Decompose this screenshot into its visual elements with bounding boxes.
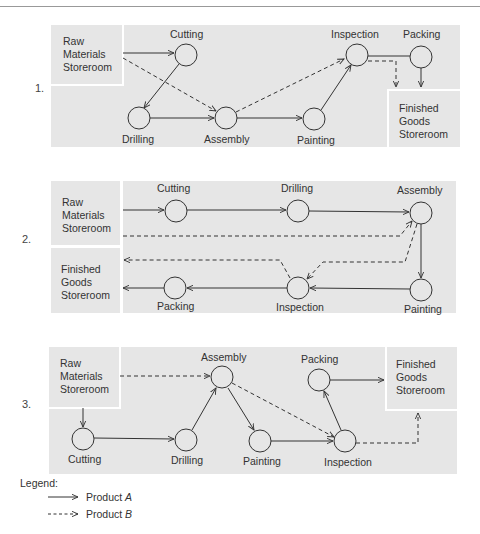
svg-text:Raw: Raw [62, 196, 83, 208]
svg-text:Painting: Painting [243, 455, 281, 467]
legend-product-a: Product A [86, 491, 132, 503]
svg-text:Painting: Painting [297, 134, 335, 146]
svg-text:Goods: Goods [396, 371, 427, 383]
legend-title: Legend: [20, 477, 58, 489]
legend-product-b-label: Product [86, 508, 122, 520]
svg-text:Cutting: Cutting [170, 28, 203, 40]
svg-text:Drilling: Drilling [171, 454, 203, 466]
svg-text:Assembly: Assembly [397, 184, 443, 196]
svg-text:Finished: Finished [396, 358, 436, 370]
legend-product-a-label: Product [86, 491, 122, 503]
svg-text:Cutting: Cutting [157, 182, 190, 194]
svg-text:Goods: Goods [399, 115, 430, 127]
svg-text:Raw: Raw [63, 35, 84, 47]
svg-text:Storeroom: Storeroom [399, 128, 448, 140]
legend-product-b-letter: B [125, 508, 132, 520]
svg-text:Assembly: Assembly [204, 133, 250, 145]
legend-product-a-letter: A [125, 491, 132, 503]
svg-text:Storeroom: Storeroom [396, 384, 445, 396]
panel-2: Raw Materials Storeroom Finished Goods S… [51, 181, 456, 315]
svg-text:Cutting: Cutting [68, 453, 101, 465]
svg-text:Drilling: Drilling [281, 182, 313, 194]
svg-text:Drilling: Drilling [122, 133, 154, 145]
svg-text:Materials: Materials [63, 48, 106, 60]
svg-text:Finished: Finished [61, 263, 101, 275]
legend-product-b: Product B [86, 508, 132, 520]
svg-text:Storeroom: Storeroom [63, 61, 112, 73]
svg-text:Materials: Materials [62, 209, 105, 221]
svg-text:Storeroom: Storeroom [60, 383, 109, 395]
svg-text:Goods: Goods [61, 276, 92, 288]
svg-text:Inspection: Inspection [324, 456, 372, 468]
svg-text:Raw: Raw [60, 357, 81, 369]
svg-text:Storeroom: Storeroom [62, 222, 111, 234]
svg-text:Packing: Packing [157, 300, 195, 312]
svg-text:Packing: Packing [403, 28, 441, 40]
svg-text:Painting: Painting [404, 303, 442, 315]
layout-diagram: Raw Materials Storeroom Finished Goods S… [0, 0, 480, 534]
panel-1: Raw Materials Storeroom Finished Goods S… [51, 23, 462, 150]
svg-text:Inspection: Inspection [276, 301, 324, 313]
panel-3: Raw Materials Storeroom Finished Goods S… [49, 345, 459, 474]
svg-text:Assembly: Assembly [201, 351, 247, 363]
svg-text:Finished: Finished [399, 102, 439, 114]
svg-text:Materials: Materials [60, 370, 103, 382]
svg-text:Packing: Packing [301, 353, 339, 365]
svg-text:Storeroom: Storeroom [61, 289, 110, 301]
svg-text:Inspection: Inspection [331, 28, 379, 40]
